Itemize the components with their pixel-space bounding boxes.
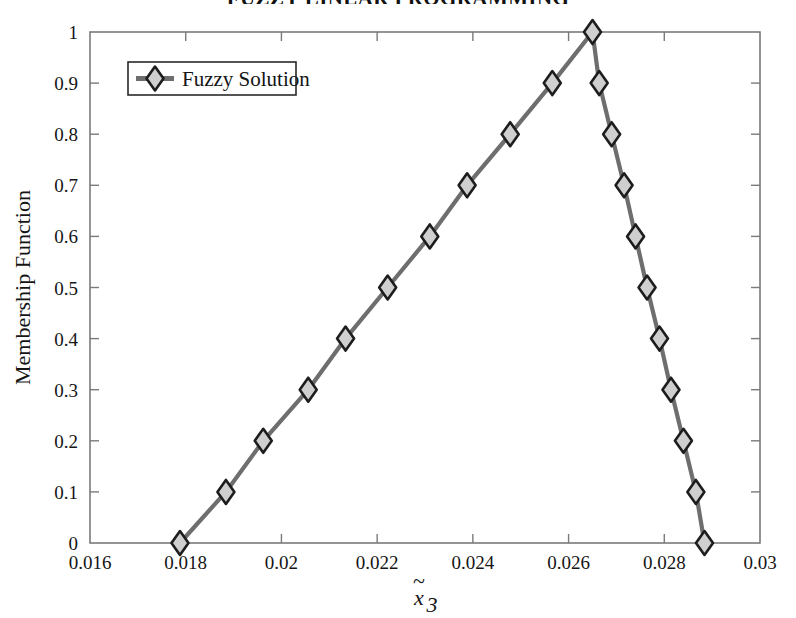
y-tick-label: 0.7 [54,175,78,196]
data-point-marker [627,224,644,248]
series-group [171,20,713,555]
series-line-fuzzy-solution [180,32,705,543]
data-point-marker [662,378,679,402]
y-tick-label: 1 [69,22,79,43]
data-point-marker [687,480,704,504]
x-axis-title-tilde: ~ [413,568,425,593]
x-tick-label: 0.024 [451,552,494,573]
x-tick-label: 0.018 [164,552,207,573]
y-tick-label: 0.1 [54,482,78,503]
data-point-marker [591,71,608,95]
data-point-marker [651,327,668,351]
y-tick-label: 0.3 [54,380,78,401]
y-tick-label: 0.6 [54,226,78,247]
figure-container: FUZZY LINEAR PROGRAMMING 0.0160.0180.020… [0,0,796,618]
x-tick-label: 0.03 [743,552,776,573]
x-axis-title: x~3 [413,568,437,617]
data-point-marker [696,531,713,555]
y-tick-label: 0.4 [54,329,78,350]
axes-group: 0.0160.0180.020.0220.0240.0260.0280.0300… [10,22,777,617]
y-tick-label: 0 [69,533,79,554]
data-point-marker [616,173,633,197]
x-tick-label: 0.026 [547,552,590,573]
data-point-marker [603,122,620,146]
membership-function-chart: 0.0160.0180.020.0220.0240.0260.0280.0300… [0,0,796,618]
data-point-marker [675,429,692,453]
y-tick-label: 0.2 [54,431,78,452]
legend-group: Fuzzy Solution [128,62,310,95]
y-tick-label: 0.8 [54,124,78,145]
x-tick-label: 0.022 [356,552,399,573]
x-tick-label: 0.02 [265,552,298,573]
x-axis-title-subscript: 3 [426,592,438,617]
legend-label: Fuzzy Solution [182,67,310,91]
y-axis-title: Membership Function [10,190,35,385]
y-tick-label: 0.9 [54,73,78,94]
data-point-marker [639,276,656,300]
x-tick-label: 0.016 [69,552,112,573]
y-tick-label: 0.5 [54,278,78,299]
plot-frame [90,32,760,543]
x-tick-label: 0.028 [643,552,686,573]
